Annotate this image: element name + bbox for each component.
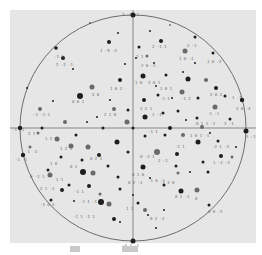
miller-index-label: 1 0 xyxy=(50,161,58,166)
pole-point xyxy=(194,62,196,64)
miller-index-label: -1 -2 xyxy=(25,149,38,154)
miller-index-label: 1 1 xyxy=(126,206,134,211)
pole-point xyxy=(98,199,104,205)
caption-mark xyxy=(122,246,138,252)
miller-index-label: -1 1 -1 xyxy=(80,199,97,204)
miller-index-label: -1 1 xyxy=(74,189,84,194)
pole-point xyxy=(68,184,71,187)
pole-point xyxy=(217,140,220,143)
pole-point xyxy=(209,132,211,134)
pole-point xyxy=(175,165,178,168)
pole-point xyxy=(52,100,54,102)
miller-index-label: 1 1 xyxy=(56,177,64,182)
miller-index-label: -1 1 xyxy=(160,96,170,101)
pole-point xyxy=(149,30,151,32)
pole-point xyxy=(112,217,116,221)
pole-point xyxy=(112,107,116,111)
miller-index-label: 2 0 -1 xyxy=(141,63,156,68)
rim-pole-point xyxy=(169,24,171,26)
pole-point xyxy=(164,134,167,137)
miller-index-label: -1 -1 xyxy=(207,111,220,116)
miller-index-label: -1 -1 xyxy=(15,157,28,162)
miller-index-label: 2 1 0 xyxy=(104,112,117,117)
pole-point xyxy=(124,63,126,65)
pole-point xyxy=(138,46,141,49)
pole-point xyxy=(119,221,121,223)
pole-point xyxy=(73,200,75,202)
pole-point xyxy=(165,74,168,77)
pole-point xyxy=(60,188,64,192)
cardinal-pole-point xyxy=(131,13,136,18)
pole-point xyxy=(90,85,95,90)
pole-point xyxy=(107,165,110,168)
pole-point xyxy=(141,74,146,79)
miller-index-label: 1 0 1 -1 xyxy=(190,133,210,138)
miller-index-label: 3 -1 xyxy=(224,121,234,126)
miller-index-label: -2 1 -3 xyxy=(212,144,229,149)
pole-point xyxy=(132,127,135,130)
miller-index-label: 2 1 -1 xyxy=(40,186,55,191)
pole-point xyxy=(154,149,160,155)
stereographic-projection-figure: 2 -3 -11 -5 -22 -1 12 -11 0 -11 0 -2-1 1… xyxy=(0,0,262,255)
pole-point xyxy=(117,176,120,179)
miller-index-label: 0 1 0 xyxy=(132,172,145,177)
rim-pole-point xyxy=(208,204,211,207)
pole-point xyxy=(213,105,218,110)
miller-index-label: -1 1 xyxy=(148,129,158,134)
rim-pole-point xyxy=(26,87,28,89)
pole-point xyxy=(72,68,74,70)
miller-index-label: 0 -1 1 xyxy=(30,174,45,179)
miller-index-label: 0 2 -1 xyxy=(128,180,143,185)
pole-point xyxy=(202,161,205,164)
pole-point xyxy=(91,171,96,176)
pole-point xyxy=(127,151,130,154)
miller-index-label: 2 -1 1 xyxy=(152,44,167,49)
miller-index-label: 1 -1 xyxy=(232,95,242,100)
miller-index-label: 2 0 1 xyxy=(148,80,161,85)
pole-point xyxy=(109,99,111,101)
pole-point xyxy=(75,134,78,137)
caption-mark xyxy=(70,246,80,252)
miller-index-label: 1 0 xyxy=(135,80,143,85)
miller-index-label: -1 1 xyxy=(175,144,185,149)
pole-point xyxy=(168,126,172,130)
miller-index-label: 1 2 1 xyxy=(60,146,73,151)
miller-index-label: 2 -1 xyxy=(187,43,197,48)
miller-index-label: 1 2 1 xyxy=(45,136,58,141)
miller-index-label: 1 -1 xyxy=(152,112,162,117)
pole-point xyxy=(147,214,149,216)
pole-point xyxy=(37,132,40,135)
rim-pole-point xyxy=(212,52,215,55)
pole-point xyxy=(48,173,53,178)
pole-point xyxy=(196,117,199,120)
pole-point xyxy=(38,107,42,111)
figure-caption xyxy=(0,244,262,255)
miller-index-label: 1 -1 -2 xyxy=(213,160,230,165)
miller-index-label: -1 0 2 xyxy=(40,202,55,207)
pole-point xyxy=(142,98,146,102)
pole-point xyxy=(155,227,157,229)
pole-point xyxy=(182,71,184,73)
pole-point xyxy=(219,154,223,158)
pole-point xyxy=(162,112,165,115)
pole-point xyxy=(231,156,234,159)
miller-index-label: 2 1 xyxy=(28,131,36,136)
miller-index-label: 1 0 2 xyxy=(110,86,123,91)
miller-index-label: 0 -2 1 xyxy=(140,154,155,159)
pole-point xyxy=(143,208,147,212)
pole-point xyxy=(177,172,180,175)
miller-index-label: 0 2 -2 xyxy=(150,216,165,221)
pole-point xyxy=(214,86,218,90)
miller-index-label: 2 0 xyxy=(92,92,100,97)
pole-point xyxy=(180,90,185,95)
pole-point xyxy=(132,194,134,196)
pole-point xyxy=(144,135,147,138)
pole-point xyxy=(86,121,88,123)
pole-point xyxy=(115,140,120,145)
miller-index-label: 2 0 -4 xyxy=(236,106,251,111)
pole-point xyxy=(87,184,91,188)
pole-point xyxy=(96,116,98,118)
miller-index-label: -1 -1 1 xyxy=(33,112,50,117)
pole-point xyxy=(86,145,91,150)
pole-point xyxy=(196,140,201,145)
